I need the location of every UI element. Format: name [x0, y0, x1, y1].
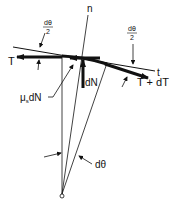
- friction-leader-line: [48, 65, 73, 97]
- half-angle-left-leader-lower: [38, 60, 39, 70]
- half-angle-left-den: 2: [46, 28, 50, 35]
- half-angle-right-den: 2: [130, 34, 134, 41]
- angle-leader-right: [79, 156, 92, 164]
- pivot-point: [60, 194, 64, 198]
- angle-label: dθ: [95, 159, 107, 170]
- half-angle-right-leader-lower: [122, 77, 127, 87]
- half-angle-right-num: dθ: [128, 25, 136, 32]
- normal-force-label: dN: [85, 77, 98, 88]
- half-angle-left-leader: [40, 33, 45, 47]
- half-angle-left-num: dθ: [44, 19, 52, 26]
- normal-axis-label: n: [87, 3, 93, 14]
- friction-force-label: μsdN: [20, 92, 42, 104]
- angle-leader-left: [44, 153, 61, 157]
- belt-friction-diagram: n t T T + dT dN μsdN dθ 2 dθ 2 dθ: [0, 0, 183, 203]
- tension-left-label: T: [8, 55, 15, 67]
- tension-right-label: T + dT: [137, 76, 169, 88]
- normal-axis-line: [62, 15, 88, 194]
